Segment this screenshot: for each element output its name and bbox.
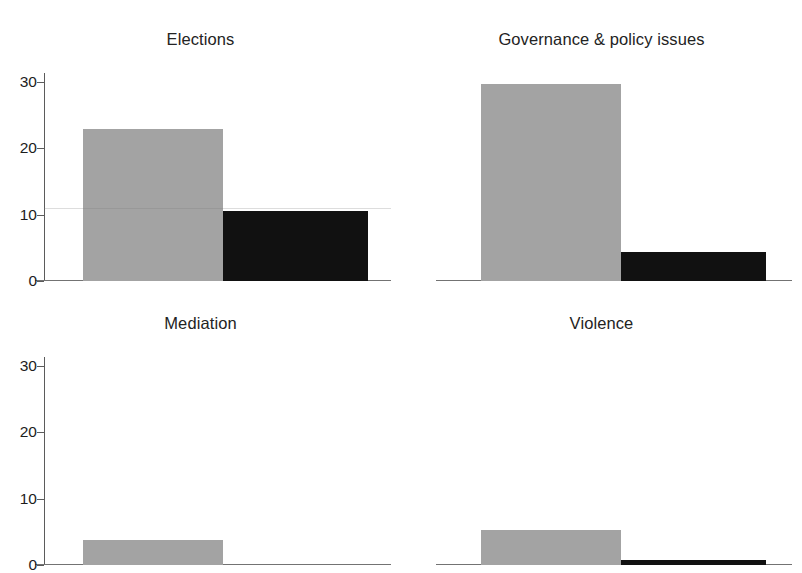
y-tick-label-10: 10 bbox=[20, 490, 37, 507]
panel-title-governance-policy-issues: Governance & policy issues bbox=[401, 30, 802, 49]
plot-area-violence bbox=[445, 362, 792, 565]
panel-violence: Violence bbox=[401, 284, 802, 568]
plot-area-governance bbox=[445, 78, 792, 281]
y-tick-label-30: 30 bbox=[20, 357, 37, 374]
panel-title-violence: Violence bbox=[401, 314, 802, 333]
bar-black bbox=[223, 211, 368, 281]
panel-governance-policy-issues: Governance & policy issues bbox=[401, 0, 802, 284]
plot-area-elections: 0 10 20 30 bbox=[44, 78, 391, 281]
y-tick-label-0: 0 bbox=[28, 556, 37, 573]
y-tick-label-20: 20 bbox=[20, 423, 37, 440]
panel-elections: Elections 0 10 20 30 bbox=[0, 0, 401, 284]
bar-gray bbox=[481, 84, 621, 281]
y-tick-label-10: 10 bbox=[20, 206, 37, 223]
panel-title-mediation: Mediation bbox=[0, 314, 401, 333]
bar-black bbox=[621, 252, 766, 281]
panel-mediation: Mediation 0 10 20 30 bbox=[0, 284, 401, 568]
y-tick-label-20: 20 bbox=[20, 139, 37, 156]
panel-title-elections: Elections bbox=[0, 30, 401, 49]
plot-area-mediation: 0 10 20 30 bbox=[44, 362, 391, 565]
y-tick-label-30: 30 bbox=[20, 73, 37, 90]
bar-gray bbox=[83, 540, 223, 565]
bar-black bbox=[621, 560, 766, 565]
y-axis-line bbox=[44, 357, 45, 565]
bar-gray bbox=[481, 530, 621, 565]
bar-gray bbox=[83, 129, 223, 281]
y-axis-line bbox=[44, 73, 45, 281]
